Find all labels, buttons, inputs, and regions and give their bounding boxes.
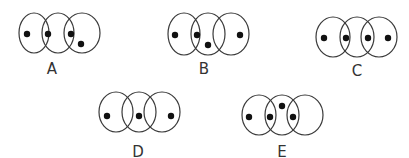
dot (168, 113, 174, 119)
ellipse-1 (99, 92, 133, 132)
dot (290, 114, 296, 120)
diagram-canvas: ABCDE (0, 0, 409, 158)
dot (24, 31, 30, 37)
diagram-label: A (47, 60, 58, 78)
ellipse-1 (19, 13, 49, 53)
diagram-label: E (277, 143, 286, 158)
diagram-label: D (132, 143, 144, 158)
dot (246, 114, 252, 120)
diagram-label: B (199, 60, 209, 78)
diagram-b: B (168, 13, 249, 78)
dot (45, 31, 51, 37)
dot (321, 35, 327, 41)
diagram-a: A (19, 13, 100, 78)
dot (78, 41, 84, 47)
dot (136, 113, 142, 119)
dot (237, 32, 243, 38)
dot (104, 113, 110, 119)
ellipse-3 (144, 92, 180, 132)
ellipse-3 (213, 13, 249, 55)
dot (172, 32, 178, 38)
dot (194, 32, 200, 38)
diagram-d: D (99, 92, 180, 158)
dot (279, 103, 285, 109)
diagram-e: E (242, 95, 323, 158)
dot (267, 114, 273, 120)
ellipse-2 (122, 92, 156, 132)
dot (385, 35, 391, 41)
diagram-c: C (316, 17, 397, 80)
dot (205, 42, 211, 48)
dot (365, 35, 371, 41)
dot (343, 35, 349, 41)
diagram-label: C (352, 62, 362, 80)
dot (68, 31, 74, 37)
